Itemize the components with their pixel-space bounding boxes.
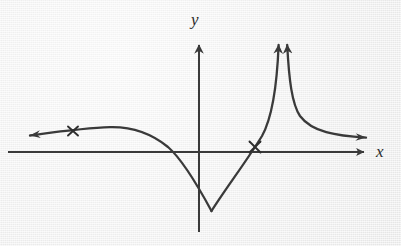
- curve-rising-branch: [212, 45, 279, 211]
- x-marker-rising-branch: [250, 142, 261, 153]
- graph-canvas: [0, 0, 401, 246]
- curve-left-branch: [30, 127, 212, 211]
- y-axis-label: y: [191, 11, 199, 28]
- curve-right-branch: [287, 45, 366, 138]
- x-axis-label: x: [376, 143, 384, 160]
- graph-figure: y x: [0, 0, 401, 246]
